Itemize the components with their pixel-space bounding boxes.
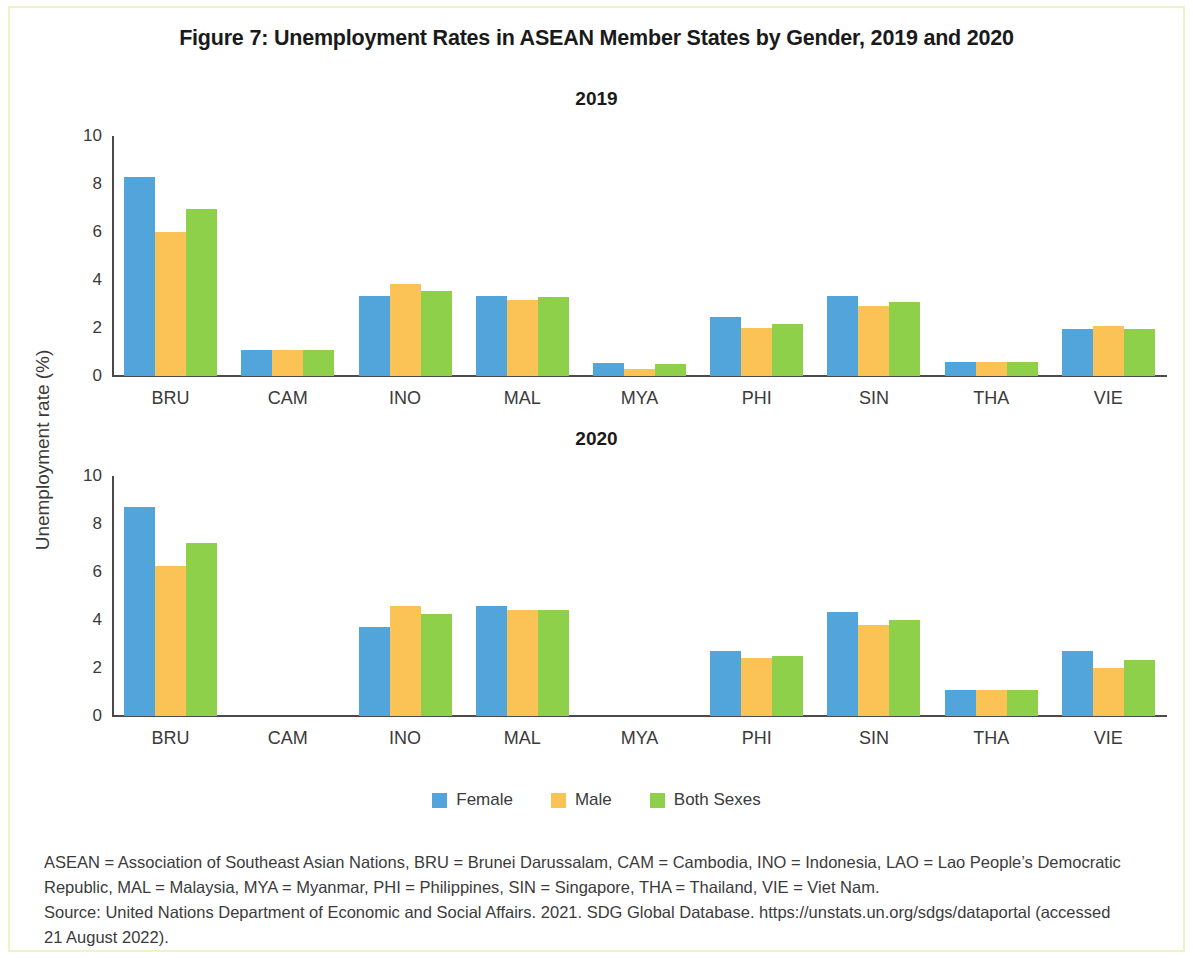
bar-group-cam: [229, 476, 346, 716]
bar-tha-both-sexes: [1007, 362, 1038, 376]
bar-group-phi: [698, 476, 815, 716]
bar-cam-male: [272, 350, 303, 376]
bar-group-phi: [698, 136, 815, 376]
bar-bru-male: [155, 232, 186, 376]
bar-sin-male: [858, 625, 889, 716]
bar-ino-female: [359, 296, 390, 376]
bar-mya-both-sexes: [655, 364, 686, 376]
chart-legend: FemaleMaleBoth Sexes: [0, 790, 1193, 810]
figure-sheet: Figure 7: Unemployment Rates in ASEAN Me…: [0, 0, 1193, 958]
bar-group-vie: [1050, 136, 1167, 376]
bar-sin-female: [827, 296, 858, 376]
bar-phi-both-sexes: [772, 656, 803, 716]
bar-tha-female: [945, 362, 976, 376]
bar-mal-female: [476, 606, 507, 716]
bar-group-ino: [346, 476, 463, 716]
bar-group-vie: [1050, 476, 1167, 716]
y-tick-10: 10: [83, 466, 102, 486]
bar-cam-female: [241, 350, 272, 376]
bar-ino-male: [390, 284, 421, 376]
bar-bru-both-sexes: [186, 543, 217, 716]
bar-group-bru: [112, 136, 229, 376]
legend-item-female: Female: [432, 790, 513, 810]
bar-vie-both-sexes: [1124, 329, 1155, 376]
notes-line-4: 21 August 2022).: [44, 925, 1154, 950]
y-tick-6: 6: [93, 562, 102, 582]
x-tick-tha: THA: [973, 388, 1009, 409]
legend-item-male: Male: [551, 790, 612, 810]
bar-ino-female: [359, 627, 390, 716]
bar-group-mya: [581, 136, 698, 376]
x-tick-phi: PHI: [742, 388, 772, 409]
x-tick-cam: CAM: [268, 728, 308, 749]
y-tick-0: 0: [93, 706, 102, 726]
bar-ino-male: [390, 606, 421, 716]
x-tick-tha: THA: [973, 728, 1009, 749]
bar-bru-female: [124, 177, 155, 376]
legend-label: Male: [575, 790, 612, 810]
notes-line-3: Source: United Nations Department of Eco…: [44, 900, 1154, 925]
legend-item-both-sexes: Both Sexes: [650, 790, 761, 810]
bar-phi-female: [710, 651, 741, 716]
y-tick-10: 10: [83, 126, 102, 146]
bar-sin-male: [858, 306, 889, 376]
bar-vie-female: [1062, 651, 1093, 716]
bar-ino-both-sexes: [421, 614, 452, 716]
bar-sin-both-sexes: [889, 620, 920, 716]
figure-title: Figure 7: Unemployment Rates in ASEAN Me…: [0, 26, 1193, 51]
y-tick-2: 2: [93, 318, 102, 338]
bar-tha-both-sexes: [1007, 690, 1038, 716]
bar-group-mal: [464, 136, 581, 376]
x-tick-mya: MYA: [621, 388, 659, 409]
x-tick-vie: VIE: [1094, 728, 1123, 749]
y-tick-4: 4: [93, 270, 102, 290]
x-tick-mal: MAL: [504, 728, 541, 749]
bar-bru-male: [155, 566, 186, 716]
bar-phi-female: [710, 317, 741, 376]
bar-group-sin: [815, 476, 932, 716]
x-tick-mal: MAL: [504, 388, 541, 409]
bar-vie-both-sexes: [1124, 660, 1155, 716]
legend-label: Female: [456, 790, 513, 810]
legend-label: Both Sexes: [674, 790, 761, 810]
panel-title-2020: 2020: [0, 428, 1193, 450]
panel-title-2019: 2019: [0, 88, 1193, 110]
y-tick-8: 8: [93, 514, 102, 534]
bar-phi-male: [741, 658, 772, 716]
legend-swatch-icon: [650, 793, 665, 808]
bar-group-ino: [346, 136, 463, 376]
bar-cam-both-sexes: [303, 350, 334, 376]
x-tick-phi: PHI: [742, 728, 772, 749]
x-tick-sin: SIN: [859, 388, 889, 409]
bar-mal-male: [507, 300, 538, 376]
x-tick-bru: BRU: [152, 728, 190, 749]
bar-tha-female: [945, 690, 976, 716]
legend-swatch-icon: [551, 793, 566, 808]
x-tick-bru: BRU: [152, 388, 190, 409]
bar-sin-both-sexes: [889, 302, 920, 376]
bar-ino-both-sexes: [421, 291, 452, 376]
bar-sin-female: [827, 612, 858, 716]
bar-group-tha: [933, 136, 1050, 376]
bar-group-bru: [112, 476, 229, 716]
bar-vie-male: [1093, 668, 1124, 716]
chart-panel-2019: 2019 0246810 BRUCAMINOMALMYAPHISINTHAVIE: [0, 88, 1193, 418]
bar-mal-female: [476, 296, 507, 376]
bar-tha-male: [976, 362, 1007, 376]
bar-tha-male: [976, 690, 1007, 716]
bar-phi-both-sexes: [772, 324, 803, 376]
y-tick-4: 4: [93, 610, 102, 630]
y-tick-0: 0: [93, 366, 102, 386]
x-tick-ino: INO: [389, 388, 421, 409]
bar-mal-both-sexes: [538, 297, 569, 376]
bar-bru-both-sexes: [186, 209, 217, 376]
x-tick-ino: INO: [389, 728, 421, 749]
x-tick-mya: MYA: [621, 728, 659, 749]
bar-group-mal: [464, 476, 581, 716]
bar-group-cam: [229, 136, 346, 376]
bar-mya-female: [593, 363, 624, 376]
plot-area-2019: 0246810 BRUCAMINOMALMYAPHISINTHAVIE: [112, 136, 1167, 376]
bar-mya-male: [624, 369, 655, 376]
chart-panel-2020: 2020 0246810 BRUCAMINOMALMYAPHISINTHAVIE: [0, 428, 1193, 758]
bar-group-mya: [581, 476, 698, 716]
